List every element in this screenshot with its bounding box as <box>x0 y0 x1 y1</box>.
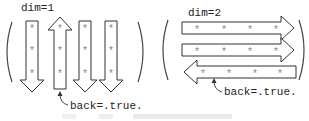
svg-text:*: * <box>277 69 283 80</box>
right-paren-open <box>163 20 168 80</box>
svg-text:*: * <box>82 46 88 57</box>
svg-text:*: * <box>82 69 88 80</box>
svg-text:*: * <box>252 69 258 80</box>
svg-text:*: * <box>29 24 35 35</box>
left-paren-open <box>7 22 12 82</box>
svg-text:*: * <box>200 69 206 80</box>
svg-text:*: * <box>194 25 200 36</box>
pointer-arrowhead-left <box>58 91 63 96</box>
array-diagram: *** *** *** *** **** **** **** <box>0 0 309 121</box>
svg-text:*: * <box>247 47 253 58</box>
svg-text:*: * <box>247 25 253 36</box>
left-paren-close <box>138 22 143 82</box>
svg-text:*: * <box>57 69 63 80</box>
svg-text:*: * <box>226 69 232 80</box>
svg-text:*: * <box>57 24 63 35</box>
svg-text:*: * <box>108 69 114 80</box>
svg-text:*: * <box>221 25 227 36</box>
svg-text:*: * <box>57 46 63 57</box>
svg-text:*: * <box>29 69 35 80</box>
svg-text:*: * <box>194 47 200 58</box>
svg-text:*: * <box>108 46 114 57</box>
pointer-arrowhead-right <box>212 78 217 83</box>
svg-text:*: * <box>29 46 35 57</box>
svg-text:*: * <box>273 25 279 36</box>
svg-text:*: * <box>273 47 279 58</box>
svg-text:*: * <box>221 47 227 58</box>
svg-text:*: * <box>108 24 114 35</box>
right-paren-close <box>299 20 304 80</box>
svg-text:*: * <box>82 24 88 35</box>
